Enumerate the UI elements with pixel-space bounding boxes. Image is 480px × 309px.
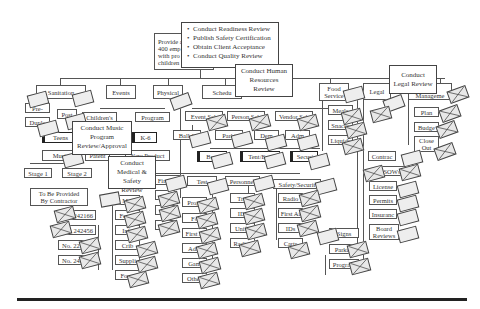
node-contractor: To Be Provided By Contractor xyxy=(30,188,88,206)
node-safety-security: Safety/Securit xyxy=(273,179,321,189)
node-plan: Plan xyxy=(414,107,439,117)
envelope-icon xyxy=(317,228,340,246)
callout-readiness: Conduct Readiness Review Publish Safety … xyxy=(181,22,279,68)
envelope-crossed-icon xyxy=(370,106,393,124)
node-program: Program xyxy=(135,112,170,122)
connector-ev-sub xyxy=(100,108,165,109)
callout-hr: Conduct Human Resources Review xyxy=(235,64,293,97)
envelope-icon xyxy=(397,226,420,244)
node-contracts: Contrac xyxy=(368,151,396,161)
node-stage2: Stage 2 xyxy=(62,168,92,178)
connector-lvl4-h xyxy=(140,173,300,174)
node-k6: K-6 xyxy=(132,132,157,143)
node-licenses: License xyxy=(369,181,397,191)
node-board-review: Board Reviews xyxy=(369,224,399,240)
callout-music: Conduct Music Program Review/Approval xyxy=(72,121,132,155)
connector-root-v xyxy=(200,70,201,79)
connector-food-list xyxy=(322,97,323,151)
wbs-diagram: Provide a 400 emp with pro children Cond… xyxy=(0,0,480,309)
divider-rule xyxy=(17,298,467,301)
connector-signs-list xyxy=(325,255,326,275)
callout-medical: Conduct Medical & Safety Review xyxy=(108,156,156,189)
node-stage1: Stage 1 xyxy=(24,168,52,178)
connector-sched-sub xyxy=(192,108,342,109)
callout-legal: Conduct Legal Review xyxy=(389,65,437,94)
node-legal: Legal xyxy=(363,83,391,100)
envelope-crossed-icon xyxy=(363,165,386,183)
envelope-crossed-icon xyxy=(50,221,73,239)
connector-med-list xyxy=(112,205,113,270)
node-events: Events xyxy=(106,85,136,99)
connector-mgmt-list xyxy=(408,95,409,145)
node-insurance: Insuranc xyxy=(369,209,397,219)
node-permits: Permits xyxy=(369,195,397,205)
connector-safety-list xyxy=(276,180,277,240)
